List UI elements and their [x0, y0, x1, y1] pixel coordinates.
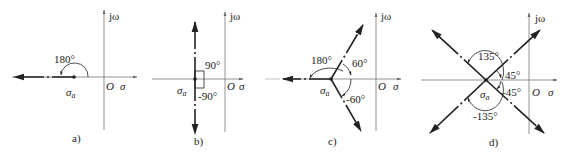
asymptote-neg60	[331, 79, 361, 131]
angle-arc-60	[343, 64, 351, 75]
imag-axis-label: jω	[534, 12, 545, 24]
panel-d: 135° 45° -45° -135° σa O σ jω d)	[421, 12, 557, 149]
centroid-point	[484, 78, 488, 82]
panel-c: 180° 60° -60° σa O σ jω c)	[283, 10, 401, 148]
angle-arc-180	[310, 68, 343, 78]
centroid-label: σa	[480, 88, 489, 102]
angle-label: -45°	[502, 86, 521, 98]
centroid-point	[329, 77, 333, 81]
angle-label: -135°	[473, 110, 498, 122]
asymptote-neg135	[430, 80, 486, 133]
centroid-label: σa	[177, 84, 186, 98]
origin-label: O	[106, 80, 114, 92]
angle-arc-180	[61, 63, 88, 77]
asymptote-60	[331, 25, 363, 79]
imag-axis-label: jω	[108, 10, 119, 22]
origin-label: O	[227, 80, 235, 92]
real-axis-label: σ	[393, 80, 399, 92]
angle-label: 90°	[205, 59, 220, 71]
root-locus-asymptote-figure: 180° σa O σ jω a) 90° -90° σa O σ jω b)	[0, 0, 569, 154]
angle-label: 60°	[352, 57, 367, 69]
angle-label: -60°	[346, 93, 365, 105]
origin-label: O	[378, 80, 386, 92]
panel-a: 180° σa O σ jω a)	[12, 10, 137, 145]
panel-caption: c)	[328, 135, 337, 148]
angle-arc-neg45	[497, 81, 501, 89]
panel-b: 90° -90° σa O σ jω b)	[152, 10, 245, 148]
centroid-point	[72, 75, 76, 79]
centroid-label: σa	[320, 84, 329, 98]
centroid-label: σa	[66, 86, 75, 100]
angle-label: 180°	[311, 54, 332, 66]
angle-label: 180°	[54, 53, 75, 65]
panel-caption: b)	[194, 135, 204, 148]
angle-label: 135°	[478, 50, 499, 62]
panel-caption: d)	[489, 136, 499, 149]
imag-axis-label: jω	[380, 10, 391, 22]
panel-caption: a)	[72, 132, 81, 145]
real-axis-label: σ	[120, 80, 126, 92]
angle-label: -90°	[198, 90, 217, 102]
angle-label: 45°	[505, 69, 520, 81]
origin-label: O	[532, 86, 540, 98]
imag-axis-label: jω	[229, 10, 240, 22]
real-axis-label: σ	[548, 86, 554, 98]
real-axis-label: σ	[239, 80, 245, 92]
angle-arc-45	[497, 71, 501, 78]
